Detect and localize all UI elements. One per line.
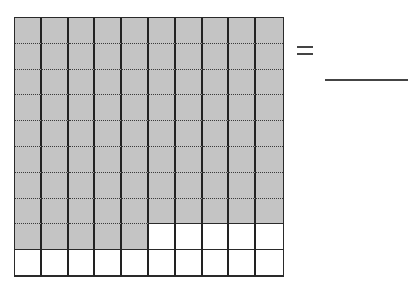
grid-cell-unshaded bbox=[69, 250, 96, 276]
grid-cell-shaded bbox=[69, 95, 96, 121]
grid-cell-shaded bbox=[95, 147, 122, 173]
grid-cell-shaded bbox=[256, 121, 283, 147]
grid-cell-shaded bbox=[69, 147, 96, 173]
grid-cell-shaded bbox=[95, 95, 122, 121]
grid-cell-unshaded bbox=[176, 250, 203, 276]
grid-cell-shaded bbox=[229, 70, 256, 96]
grid-cell-shaded bbox=[15, 18, 42, 44]
grid-cell-shaded bbox=[15, 199, 42, 225]
grid-cell-shaded bbox=[122, 70, 149, 96]
grid-cell-shaded bbox=[176, 147, 203, 173]
grid-cell-shaded bbox=[229, 44, 256, 70]
grid-cell-shaded bbox=[149, 95, 176, 121]
grid-cell-shaded bbox=[203, 121, 230, 147]
grid-cell-shaded bbox=[256, 95, 283, 121]
grid-cell-shaded bbox=[256, 147, 283, 173]
grid-cell-shaded bbox=[42, 147, 69, 173]
grid-cell-unshaded bbox=[256, 224, 283, 250]
grid-cell-shaded bbox=[176, 173, 203, 199]
grid-cell-shaded bbox=[203, 44, 230, 70]
grid-cell-shaded bbox=[95, 173, 122, 199]
grid-cell-shaded bbox=[69, 121, 96, 147]
grid-cell-shaded bbox=[203, 173, 230, 199]
grid-cell-shaded bbox=[15, 121, 42, 147]
grid-cell-shaded bbox=[149, 18, 176, 44]
grid-cell-unshaded bbox=[15, 250, 42, 276]
grid-cell-shaded bbox=[15, 44, 42, 70]
grid-cell-unshaded bbox=[95, 250, 122, 276]
grid-cell-shaded bbox=[256, 44, 283, 70]
grid-cell-shaded bbox=[149, 173, 176, 199]
grid-cell-unshaded bbox=[149, 224, 176, 250]
grid-cell-shaded bbox=[42, 18, 69, 44]
grid-cell-shaded bbox=[95, 199, 122, 225]
grid-cell-shaded bbox=[149, 147, 176, 173]
grid-cell-shaded bbox=[122, 224, 149, 250]
grid-cell-shaded bbox=[229, 173, 256, 199]
grid-cell-shaded bbox=[15, 95, 42, 121]
grid-cell-shaded bbox=[122, 173, 149, 199]
grid-cell-shaded bbox=[229, 147, 256, 173]
grid-cell-shaded bbox=[69, 18, 96, 44]
grid-cell-shaded bbox=[42, 224, 69, 250]
grid-cell-shaded bbox=[69, 199, 96, 225]
grid-cell-unshaded bbox=[122, 250, 149, 276]
grid-cell-shaded bbox=[42, 70, 69, 96]
grid-cell-shaded bbox=[42, 95, 69, 121]
answer-blank-line[interactable] bbox=[325, 79, 408, 81]
grid-cell-shaded bbox=[149, 44, 176, 70]
grid-cell-shaded bbox=[203, 18, 230, 44]
equals-sign bbox=[297, 46, 313, 56]
grid-cell-shaded bbox=[15, 224, 42, 250]
grid-cell-shaded bbox=[15, 70, 42, 96]
grid-cell-shaded bbox=[176, 121, 203, 147]
grid-cell-shaded bbox=[95, 121, 122, 147]
grid-cell-shaded bbox=[122, 95, 149, 121]
grid-cell-unshaded bbox=[176, 224, 203, 250]
grid-cell-shaded bbox=[69, 173, 96, 199]
grid-cell-shaded bbox=[256, 199, 283, 225]
grid-cell-shaded bbox=[15, 173, 42, 199]
grid-cell-unshaded bbox=[203, 250, 230, 276]
grid-cell-shaded bbox=[256, 70, 283, 96]
hundred-grid bbox=[14, 17, 284, 277]
grid-cell-shaded bbox=[229, 199, 256, 225]
grid-cell-shaded bbox=[69, 70, 96, 96]
grid-cell-shaded bbox=[149, 70, 176, 96]
grid-cell-shaded bbox=[95, 224, 122, 250]
grid-cell-shaded bbox=[203, 95, 230, 121]
grid-cell-shaded bbox=[15, 147, 42, 173]
grid-cell-shaded bbox=[149, 199, 176, 225]
grid-cell-shaded bbox=[203, 70, 230, 96]
grid-cell-shaded bbox=[176, 199, 203, 225]
grid-cell-shaded bbox=[95, 18, 122, 44]
grid-cell-shaded bbox=[176, 44, 203, 70]
grid-cell-shaded bbox=[122, 18, 149, 44]
equals-bar-top bbox=[297, 46, 313, 48]
grid-cell-shaded bbox=[95, 44, 122, 70]
grid-cell-shaded bbox=[176, 70, 203, 96]
grid-cell-unshaded bbox=[229, 224, 256, 250]
grid-cell-shaded bbox=[122, 199, 149, 225]
grid-cell-unshaded bbox=[203, 224, 230, 250]
grid-cell-unshaded bbox=[149, 250, 176, 276]
grid-cell-shaded bbox=[122, 147, 149, 173]
grid-cell-shaded bbox=[203, 147, 230, 173]
grid-cell-shaded bbox=[42, 44, 69, 70]
grid-cell-shaded bbox=[122, 121, 149, 147]
grid-cell-shaded bbox=[42, 199, 69, 225]
grid-cell-shaded bbox=[149, 121, 176, 147]
grid-cell-shaded bbox=[256, 18, 283, 44]
equals-bar-bottom bbox=[297, 53, 313, 55]
grid-cell-shaded bbox=[256, 173, 283, 199]
grid-cell-unshaded bbox=[256, 250, 283, 276]
grid-cell-shaded bbox=[69, 224, 96, 250]
grid-cell-unshaded bbox=[229, 250, 256, 276]
grid-cell-unshaded bbox=[42, 250, 69, 276]
grid-cell-shaded bbox=[176, 95, 203, 121]
grid-cell-shaded bbox=[42, 173, 69, 199]
grid-cell-shaded bbox=[229, 121, 256, 147]
grid-cell-shaded bbox=[203, 199, 230, 225]
grid-cell-shaded bbox=[176, 18, 203, 44]
grid-cell-shaded bbox=[229, 95, 256, 121]
